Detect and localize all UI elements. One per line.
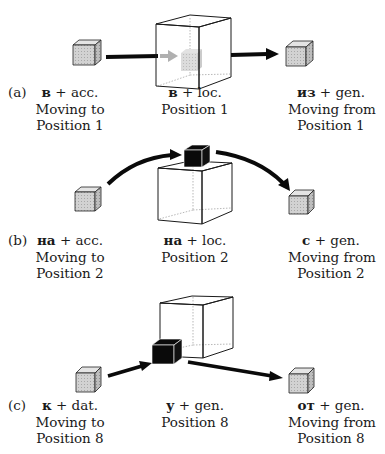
preposition: с	[302, 232, 310, 248]
preposition: у	[166, 397, 175, 413]
arrow-toward-icon	[108, 366, 142, 376]
small-cube-icon	[289, 368, 314, 393]
case: + acc.	[55, 84, 98, 100]
small-cube-icon	[286, 41, 313, 66]
row-a-right-label: из + gen. Moving from Position 1	[288, 84, 374, 134]
preposition: на	[164, 232, 183, 248]
case: + gen.	[320, 84, 365, 100]
description: Moving from	[288, 249, 374, 266]
row-a-tag: (a)	[8, 84, 27, 101]
description: Moving from	[288, 101, 374, 118]
row-a-left-label: в + acc. Moving to Position 1	[35, 84, 105, 134]
position: Position 1	[35, 117, 105, 134]
case: + gen.	[179, 397, 224, 413]
preposition: от	[298, 397, 315, 413]
row-c-left-label: к + dat. Moving to Position 8	[35, 397, 105, 447]
description: Moving to	[35, 101, 105, 118]
row-b-graphic	[75, 145, 314, 224]
diagram-canvas	[0, 0, 385, 454]
row-b-left-label: на + acc. Moving to Position 2	[35, 232, 105, 282]
case: + loc.	[182, 84, 222, 100]
case: + acc.	[60, 232, 103, 248]
row-b-right-label: с + gen. Moving from Position 2	[288, 232, 374, 282]
ghost-arrow-icon	[168, 50, 178, 62]
arc-arrow-onto-icon	[108, 155, 172, 184]
position: Position 8	[288, 430, 374, 447]
black-cube-icon	[152, 339, 182, 364]
row-c-graphic	[76, 296, 314, 393]
row-a-center-label: в + loc. Position 1	[155, 84, 235, 117]
preposition: к	[42, 397, 52, 413]
preposition: из	[297, 84, 316, 100]
description: Moving to	[35, 414, 105, 431]
row-b-tag: (b)	[8, 232, 27, 249]
arrow-away-icon	[188, 362, 272, 376]
small-cube-icon	[76, 367, 101, 392]
arc-arrow-from-icon	[216, 152, 283, 183]
row-c-center-label: у + gen. Position 8	[155, 397, 235, 430]
row-c-right-label: от + gen. Moving from Position 8	[288, 397, 374, 447]
row-a-graphic	[73, 15, 313, 89]
big-cube-icon	[158, 161, 232, 224]
case: + gen.	[315, 232, 360, 248]
case: + gen.	[319, 397, 364, 413]
position: Position 2	[155, 249, 235, 266]
position: Position 8	[35, 430, 105, 447]
row-b-center-label: на + loc. Position 2	[155, 232, 235, 265]
small-cube-icon	[73, 40, 101, 65]
preposition: на	[37, 232, 56, 248]
small-cube-icon	[75, 187, 101, 211]
arrow-out-icon	[231, 54, 268, 55]
position: Position 8	[155, 414, 235, 431]
small-cube-icon	[289, 190, 314, 214]
position: Position 2	[35, 265, 105, 282]
case: + dat.	[56, 397, 98, 413]
arrow-into-icon	[106, 56, 158, 57]
position: Position 2	[288, 265, 374, 282]
preposition: в	[168, 84, 177, 100]
description: Moving to	[35, 249, 105, 266]
description: Moving from	[288, 414, 374, 431]
position: Position 1	[288, 117, 374, 134]
preposition: в	[42, 84, 51, 100]
case: + loc.	[187, 232, 227, 248]
position: Position 1	[155, 101, 235, 118]
black-cube-icon	[184, 145, 210, 167]
row-c-tag: (c)	[8, 397, 26, 414]
